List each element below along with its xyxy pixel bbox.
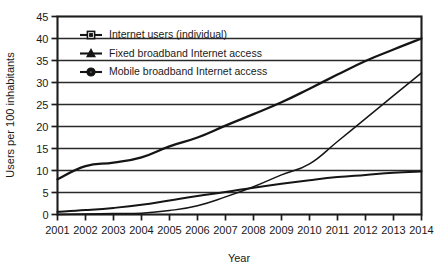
square-open-marker-icon [87,31,94,38]
x-tick-label: 2012 [353,224,377,236]
y-tick-label: 40 [36,33,48,45]
y-tick-label: 45 [36,11,48,23]
y-axis-title: Users per 100 inhabitants [4,52,16,178]
x-tick-label: 2002 [73,224,97,236]
x-tick-label: 2008 [241,224,265,236]
circle-filled-marker-icon [87,68,95,76]
y-tick-label: 5 [42,187,48,199]
line-chart: 051015202530354045 200120022003200420052… [0,0,434,269]
x-tick-label: 2007 [213,224,237,236]
x-tick-label: 2013 [381,224,405,236]
x-axis-title: Year [228,252,251,264]
x-tick-label: 2005 [157,224,181,236]
x-tick-label: 2006 [185,224,209,236]
y-tick-label: 15 [36,143,48,155]
legend-label: Fixed broadband Internet access [109,47,262,59]
x-tick-label: 2010 [297,224,321,236]
x-tick-label: 2004 [129,224,153,236]
legend-item: Mobile broadband Internet access [80,65,267,77]
y-tick-label: 30 [36,77,48,89]
legend-label: Internet users (individual) [109,28,227,40]
x-tick-label: 2003 [101,224,125,236]
x-tick-label: 2001 [45,224,69,236]
x-tick-label: 2011 [326,224,350,236]
y-tick-label: 10 [36,165,48,177]
y-tick-label: 35 [36,55,48,67]
y-tick-label: 25 [36,99,48,111]
y-tick-label: 20 [36,121,48,133]
chart-canvas: 051015202530354045 200120022003200420052… [0,0,434,269]
y-tick-label: 0 [42,209,48,221]
x-tick-label: 2014 [409,224,433,236]
x-tick-label: 2009 [269,224,293,236]
legend-label: Mobile broadband Internet access [109,65,267,77]
